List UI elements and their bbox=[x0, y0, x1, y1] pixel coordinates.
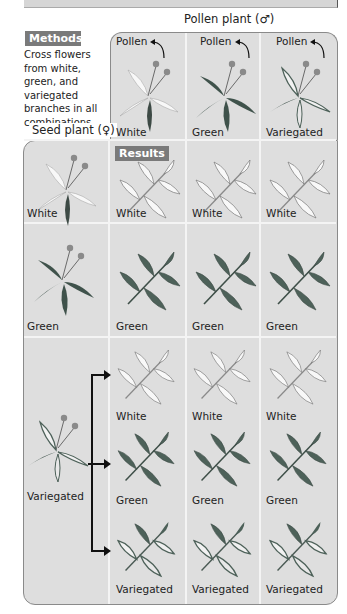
pollen-label: Pollen bbox=[116, 35, 147, 47]
grid-divider bbox=[185, 33, 187, 140]
white-offspring-icon bbox=[118, 350, 176, 406]
offspring-label: Green bbox=[192, 494, 224, 506]
green-offspring-icon bbox=[196, 252, 258, 312]
offspring-label: Variegated bbox=[192, 583, 249, 595]
green-offspring-icon bbox=[118, 432, 176, 488]
pollen-type-label: White bbox=[116, 126, 147, 138]
pollen-type-label: Green bbox=[192, 126, 224, 138]
green-offspring-icon bbox=[120, 252, 182, 312]
seed-type-label: Variegated bbox=[27, 490, 84, 502]
variegated-offspring-icon bbox=[194, 522, 252, 578]
arrowhead-icon bbox=[104, 459, 112, 469]
arrow-to-green bbox=[88, 463, 105, 465]
green-offspring-icon bbox=[270, 432, 328, 488]
green-seed-plant-icon bbox=[28, 240, 100, 320]
grid-divider bbox=[24, 139, 336, 141]
pollen-label: Pollen bbox=[200, 35, 231, 47]
methods-badge: Methods bbox=[25, 31, 81, 46]
offspring-label: Green bbox=[192, 320, 224, 332]
offspring-label: White bbox=[192, 207, 223, 219]
top-caption-bar bbox=[24, 0, 338, 8]
grid-divider bbox=[185, 140, 187, 604]
white-offspring-icon bbox=[270, 350, 328, 406]
results-badge: Results bbox=[115, 146, 169, 161]
white-flower-branch-icon bbox=[118, 56, 182, 136]
white-offspring-icon bbox=[194, 350, 252, 406]
offspring-label: Variegated bbox=[266, 583, 323, 595]
arrowhead-icon bbox=[104, 370, 112, 380]
methods-description: Cross flowers from white, green, and var… bbox=[24, 48, 114, 129]
pollen-plant-title: Pollen plant (♂) bbox=[184, 12, 274, 26]
arrowhead-icon bbox=[104, 546, 112, 556]
variegated-offspring-icon bbox=[118, 522, 176, 578]
variegated-seed-plant-icon bbox=[26, 410, 90, 490]
arrow-to-variegated bbox=[91, 550, 105, 552]
seed-type-label: Green bbox=[27, 320, 59, 332]
offspring-label: Green bbox=[266, 494, 298, 506]
green-offspring-icon bbox=[194, 432, 252, 488]
offspring-label: White bbox=[116, 410, 147, 422]
offspring-label: Green bbox=[116, 494, 148, 506]
seed-type-label: White bbox=[27, 207, 58, 219]
grid-divider bbox=[24, 336, 336, 338]
offspring-label: White bbox=[266, 410, 297, 422]
grid-divider bbox=[259, 140, 261, 604]
arrow-to-white bbox=[91, 374, 105, 376]
offspring-label: Green bbox=[116, 320, 148, 332]
pollen-label: Pollen bbox=[276, 35, 307, 47]
green-offspring-icon bbox=[270, 252, 332, 312]
offspring-label: White bbox=[116, 207, 147, 219]
offspring-label: Green bbox=[266, 320, 298, 332]
offspring-label: White bbox=[192, 410, 223, 422]
offspring-label: Variegated bbox=[116, 583, 173, 595]
grid-divider bbox=[259, 33, 261, 140]
seed-plant-title: Seed plant (♀) bbox=[30, 123, 117, 137]
variegated-flower-branch-icon bbox=[268, 56, 332, 136]
pollen-type-label: Variegated bbox=[266, 126, 323, 138]
offspring-label: White bbox=[266, 207, 297, 219]
variegated-offspring-icon bbox=[270, 522, 328, 578]
green-flower-branch-icon bbox=[194, 56, 258, 136]
